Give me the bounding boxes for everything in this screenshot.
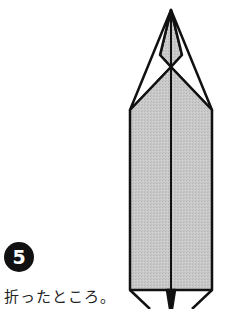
origami-diagram [0,0,227,309]
bottom-left-leg [130,290,150,309]
bottom-right-leg [192,290,212,309]
folded-paper [130,10,212,309]
bottom-center-spike [167,290,175,309]
step-number-badge: 5 [4,242,34,272]
step-caption: 折ったところ。 [4,285,116,306]
